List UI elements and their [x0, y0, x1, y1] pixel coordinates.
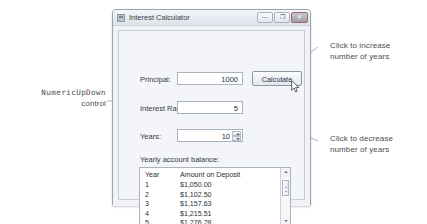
annotation-decrease-line2: number of years: [330, 145, 393, 156]
chevron-up-icon: [236, 133, 240, 135]
annotation-numericupdown: NumericUpDown control: [6, 88, 106, 109]
numericupdown-spinner: [232, 131, 241, 142]
minimize-icon: —: [258, 13, 272, 22]
cell-year: 2: [145, 191, 149, 199]
cell-year: 4: [145, 210, 149, 218]
annotation-click-to-increase: Click to increase number of years: [330, 41, 390, 62]
cell-amount: $1,157.63: [180, 200, 212, 208]
cell-year: 1: [145, 181, 149, 189]
maximize-icon: ❐: [275, 13, 289, 22]
table-row[interactable]: 5 $1,276.28: [140, 219, 290, 224]
results-listbox[interactable]: Year Amount on Deposit 1 $1,050.00 2 $1,…: [139, 167, 291, 224]
interest-calculator-window: Interest Calculator — ❐ ✕ Principal: 100…: [112, 9, 311, 206]
scroll-down-icon: [284, 220, 288, 222]
cell-amount: $1,102.50: [180, 191, 212, 199]
cell-amount: $1,050.00: [180, 181, 212, 189]
table-row[interactable]: 3 $1,157.63: [140, 200, 290, 210]
cell-amount: $1,215.51: [180, 210, 212, 218]
scroll-down-button[interactable]: [281, 217, 290, 224]
annotation-numericupdown-line2: control: [6, 99, 106, 110]
scrollbar-thumb[interactable]: [282, 180, 289, 196]
years-label: Years:: [140, 132, 161, 141]
app-icon: [117, 14, 125, 22]
interest-rate-value: 5: [234, 104, 238, 113]
interest-rate-input[interactable]: 5: [177, 101, 243, 114]
cell-year: 3: [145, 200, 149, 208]
cell-year: 5: [145, 219, 149, 224]
listbox-scrollbar[interactable]: [280, 168, 290, 224]
cell-amount: $1,276.28: [180, 219, 212, 224]
mouse-cursor-icon: [291, 80, 300, 93]
results-header-row: Year Amount on Deposit: [140, 171, 290, 181]
window-client-area: Principal: 1000 Calculate Interest Rate …: [113, 26, 310, 206]
close-button[interactable]: ✕: [291, 12, 308, 23]
spinner-down-button[interactable]: [232, 136, 241, 141]
table-row[interactable]: 4 $1,215.51: [140, 210, 290, 220]
balance-label: Yearly account balance:: [140, 155, 219, 164]
form-panel: Principal: 1000 Calculate Interest Rate …: [118, 30, 305, 200]
maximize-button[interactable]: ❐: [274, 12, 290, 23]
chevron-down-icon: [236, 138, 240, 140]
years-numericupdown[interactable]: 10: [177, 129, 243, 142]
scroll-up-button[interactable]: [281, 168, 290, 177]
principal-input[interactable]: 1000: [177, 72, 243, 85]
table-row[interactable]: 1 $1,050.00: [140, 181, 290, 191]
principal-value: 1000: [221, 75, 238, 84]
column-header-amount: Amount on Deposit: [180, 171, 240, 179]
annotation-increase-line2: number of years: [330, 52, 390, 63]
minimize-button[interactable]: —: [257, 12, 273, 23]
annotation-increase-line1: Click to increase: [330, 41, 390, 52]
annotation-numericupdown-line1: NumericUpDown: [6, 88, 106, 99]
principal-label: Principal:: [140, 75, 171, 84]
window-title: Interest Calculator: [129, 13, 190, 22]
annotation-decrease-line1: Click to decrease: [330, 134, 393, 145]
annotation-click-to-decrease: Click to decrease number of years: [330, 134, 393, 155]
scroll-up-icon: [284, 171, 288, 173]
column-header-year: Year: [145, 171, 159, 179]
years-value: 10: [222, 132, 230, 141]
table-row[interactable]: 2 $1,102.50: [140, 191, 290, 201]
window-titlebar[interactable]: Interest Calculator — ❐ ✕: [113, 10, 310, 26]
screenshot-root: NumericUpDown control Click to increase …: [0, 0, 427, 224]
close-icon: ✕: [292, 13, 307, 22]
